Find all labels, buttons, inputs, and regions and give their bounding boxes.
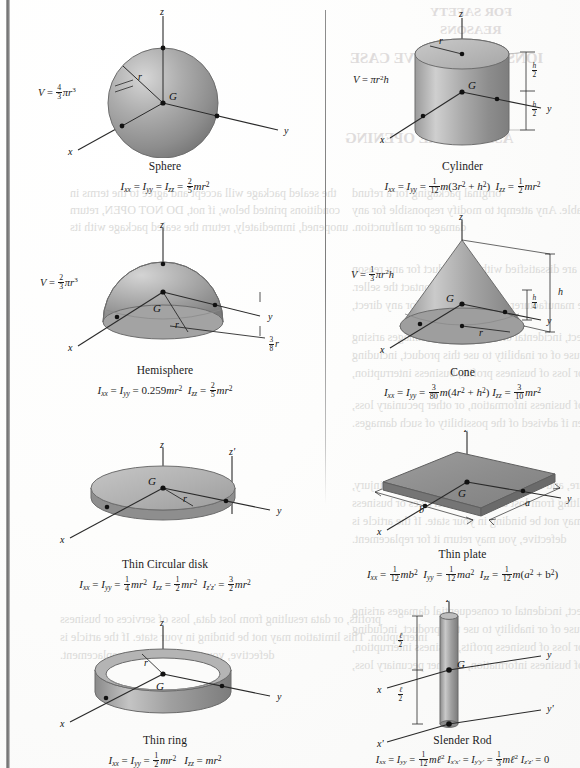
svg-text:z: z — [458, 214, 463, 222]
svg-text:b: b — [419, 504, 424, 515]
slender-rod-diagram: z y x y' x' G — [345, 600, 580, 750]
svg-text:r: r — [138, 71, 142, 82]
cone-formula: Ixx = Iyy = 380m(4r2 + h2) Izz = 310mr2 — [345, 384, 580, 402]
cylinder-dim-h2-lower: h2 — [531, 101, 538, 117]
svg-text:r: r — [439, 35, 443, 46]
svg-text:r: r — [479, 327, 483, 338]
svg-text:z: z — [159, 222, 164, 230]
cylinder-caption: Cylinder — [345, 160, 580, 172]
figure-thin-plate: z y x b a G Thin plate Ixx = 112mb2 Iyy … — [345, 430, 580, 590]
figure-thin-circular-disk: z z' y x r G Thin Circular disk Ixx = Iy… — [20, 440, 310, 585]
svg-text:G: G — [153, 302, 161, 314]
svg-text:z: z — [458, 8, 463, 19]
svg-text:x: x — [379, 134, 385, 145]
slender-rod-dim-lower: ℓ2 — [397, 686, 404, 702]
thin-circular-disk-diagram: z z' y x r G — [20, 440, 310, 555]
svg-text:x: x — [59, 534, 65, 545]
svg-text:G: G — [468, 79, 476, 91]
svg-text:x: x — [376, 684, 382, 695]
hemisphere-volume-label: V = 23πr3 — [40, 274, 78, 291]
svg-text:x: x — [67, 342, 73, 353]
svg-text:G: G — [458, 487, 466, 499]
svg-text:x: x — [67, 146, 73, 157]
svg-text:z: z — [159, 8, 164, 17]
svg-text:x: x — [379, 344, 385, 355]
sphere-caption: Sphere — [20, 160, 310, 172]
cone-volume-label: V = 13πr2h — [351, 266, 394, 283]
thin-plate-formula: Ixx = 112mb2 Iyy = 112ma2 Izz = 112m(a2 … — [345, 566, 580, 584]
figure-slender-rod: z y x y' x' G ℓ2 ℓ2 Slender Rod Ixx = Iy… — [345, 600, 580, 768]
thin-ring-caption: Thin ring — [20, 734, 310, 746]
bleed-line: even if advised of the possibility of su… — [352, 416, 580, 431]
svg-text:y: y — [546, 103, 552, 114]
cylinder-formula: Ixx = Iyy = 112m(3r2 + h2) Izz = 12mr2 — [345, 178, 580, 196]
hemisphere-caption: Hemisphere — [20, 364, 310, 376]
figure-cylinder: z y x r G V = πr2h h2 h2 Cylinder Ixx = … — [345, 8, 580, 198]
svg-text:r: r — [144, 657, 148, 668]
column-divider — [325, 10, 326, 505]
thin-circular-disk-caption: Thin Circular disk — [20, 558, 310, 570]
svg-text:y: y — [276, 505, 282, 516]
thin-plate-caption: Thin plate — [345, 548, 580, 560]
figure-cone: z y x r G V = 13πr2h h4 h Cone Ixx = Iyy… — [345, 214, 580, 399]
svg-text:y': y' — [546, 703, 554, 714]
svg-text:G: G — [148, 475, 156, 487]
cylinder-dim-h2-upper: h2 — [531, 62, 538, 78]
slender-rod-formula: Ixx = Iyy = 112mℓ2 Ix'x' = Iy'y' = 13mℓ2… — [345, 751, 580, 768]
cylinder-volume-label: V = πr2h — [353, 74, 389, 85]
svg-text:G: G — [457, 658, 465, 670]
thin-circular-disk-formula: Ixx = Iyy = 14mr2 Izz = 12mr2 Iz'z' = 32… — [20, 576, 310, 594]
svg-text:y: y — [546, 315, 552, 326]
cone-caption: Cone — [345, 366, 580, 378]
thin-ring-diagram: z y x r G — [20, 618, 310, 738]
sphere-volume-label: V = 43πr3 — [38, 84, 76, 101]
figure-sphere: z y x r G V = 43πr3 Sphere Ixx = Iyy = I… — [20, 8, 310, 198]
sphere-formula: Ixx = Iyy = Izz = 25mr2 — [20, 178, 310, 196]
slender-rod-caption: Slender Rod — [345, 734, 580, 746]
svg-text:y: y — [276, 691, 282, 702]
svg-text:y: y — [283, 125, 289, 136]
svg-text:G: G — [169, 90, 177, 102]
svg-text:z: z — [159, 440, 164, 450]
textbook-page: FOR SAFETY REASONS IONS OF EXCESSIVE CAS… — [0, 0, 580, 768]
svg-text:a: a — [525, 497, 530, 508]
svg-text:y: y — [566, 493, 572, 504]
binding-rule-inner — [9, 0, 10, 768]
thin-ring-formula: Ixx = Iyy = 12mr2 Izz = mr2 — [20, 752, 310, 768]
svg-text:r: r — [175, 319, 179, 330]
hemisphere-diagram: z y x r G — [20, 222, 310, 362]
svg-text:z: z — [445, 600, 450, 604]
cone-diagram: z y x r G — [345, 214, 580, 364]
figure-hemisphere: z y x r G V = 23πr3 38r Hemisphere Ixx =… — [20, 222, 310, 397]
cone-dim-h: h — [558, 286, 563, 297]
svg-text:z: z — [463, 430, 468, 434]
slender-rod-dim-upper: ℓ2 — [397, 632, 404, 648]
svg-text:x: x — [59, 718, 65, 729]
sphere-diagram: z y x r G — [20, 8, 310, 158]
bleed-line: conditions printed below, if not, DO NOT… — [70, 203, 340, 218]
svg-text:G: G — [446, 292, 454, 304]
svg-text:y: y — [546, 649, 552, 660]
svg-text:z: z — [159, 618, 164, 628]
cone-dim-h4: h4 — [531, 294, 538, 310]
figure-thin-ring: z y x r G Thin ring Ixx = Iyy = 12mr2 Iz… — [20, 618, 310, 768]
thin-plate-diagram: z y x b a G — [345, 430, 580, 560]
svg-text:G: G — [156, 680, 164, 692]
svg-text:z': z' — [228, 446, 236, 457]
hemisphere-formula: Ixx = Iyy = 0.259mr2 Izz = 25mr2 — [20, 382, 310, 400]
svg-text:r: r — [183, 493, 187, 504]
svg-text:y: y — [267, 311, 273, 322]
svg-text:x: x — [376, 526, 382, 537]
hemisphere-dim-offset: 38r — [268, 336, 279, 352]
